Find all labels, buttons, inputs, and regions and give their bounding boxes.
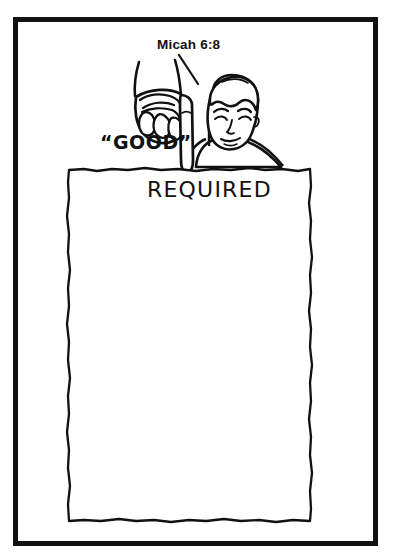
- cartoon-illustration: Micah 6:8 “GOOD” REQUIRED: [0, 0, 393, 560]
- quoted-word-label: “GOOD”: [100, 131, 192, 153]
- tablet-word-label: REQUIRED: [147, 177, 272, 202]
- parchment-tablet: [67, 168, 312, 522]
- cartoon-canvas: Micah 6:8 “GOOD” REQUIRED: [0, 0, 393, 560]
- scripture-reference-label: Micah 6:8: [157, 37, 221, 52]
